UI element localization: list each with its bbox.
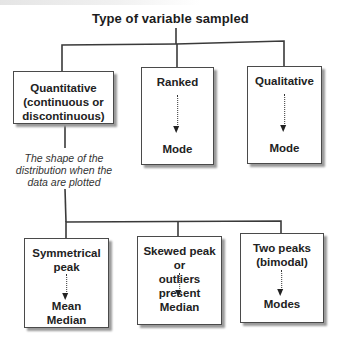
qualitative-result: Mode [248, 141, 321, 155]
label-line: (bimodal) [241, 255, 323, 269]
label-line: Symmetrical [25, 246, 108, 260]
dotted-arrow-down-icon [179, 273, 180, 291]
note-line: The shape of the [2, 152, 126, 164]
distribution-shape-note: The shape of the distribution when the d… [2, 152, 126, 188]
skewed-result: Median [138, 300, 221, 314]
result-line: Modes [241, 297, 323, 311]
bimodal-label: Two peaks (bimodal) [241, 241, 323, 269]
box-quantitative: Quantitative (continuous or discontinuou… [13, 71, 114, 124]
dotted-arrow-down-icon [177, 95, 178, 127]
label-line: discontinuous) [14, 109, 113, 123]
label-line: Two peaks [241, 241, 323, 255]
box-symmetrical-peak: Symmetrical peak Mean Median [24, 238, 109, 328]
result-line: Median [25, 313, 108, 327]
dotted-arrow-down-icon [284, 94, 285, 126]
label-line: peak [25, 260, 108, 274]
box-bimodal: Two peaks (bimodal) Modes [240, 233, 324, 323]
note-line: distribution when the [2, 164, 126, 176]
label-line: Quantitative [14, 81, 113, 95]
label-line: Skewed peak or [138, 244, 221, 272]
dotted-arrow-down-icon [66, 274, 67, 294]
note-line: data are plotted [2, 176, 126, 188]
result-line: Median [138, 300, 221, 314]
box-skewed-peak: Skewed peak or outliers present Median [137, 236, 222, 325]
dotted-arrow-down-icon [281, 270, 282, 290]
result-line: Mean [25, 299, 108, 313]
ranked-result: Mode [142, 142, 213, 156]
symmetrical-result: Mean Median [25, 299, 108, 327]
box-qualitative: Qualitative Mode [247, 66, 322, 164]
ranked-label: Ranked [142, 75, 213, 89]
qualitative-label: Qualitative [248, 74, 321, 88]
bimodal-result: Modes [241, 297, 323, 311]
symmetrical-label: Symmetrical peak [25, 246, 108, 274]
quantitative-label: Quantitative (continuous or discontinuou… [14, 81, 113, 123]
label-line: (continuous or [14, 95, 113, 109]
box-ranked: Ranked Mode [141, 67, 214, 165]
